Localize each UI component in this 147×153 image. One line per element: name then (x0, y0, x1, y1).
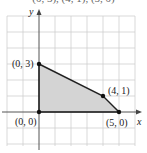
y-axis-label: y (28, 6, 34, 17)
point-label-0-0: (0, 0) (15, 116, 37, 128)
vertex-4-1 (101, 94, 105, 98)
vertex-0-3 (37, 62, 41, 66)
point-label-4-1: (4, 1) (108, 85, 130, 97)
point-label-0-3: (0, 3) (12, 58, 34, 70)
x-axis-arrow-icon (136, 110, 142, 115)
y-axis-arrow-icon (37, 9, 42, 15)
point-label-5-0: (5, 0) (106, 117, 128, 129)
feasible-region-diagram: y x (0, 3) (4, 1) (0, 0) (5, 0) (0, 0, 147, 153)
feasible-region (39, 64, 119, 112)
vertex-5-0 (117, 110, 121, 114)
x-axis-label: x (136, 116, 142, 127)
vertex-0-0 (37, 110, 41, 114)
